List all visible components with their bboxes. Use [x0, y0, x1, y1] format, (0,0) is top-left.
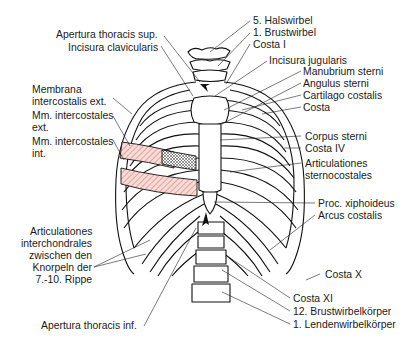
label-mm-intercostales-int-1: Mm. intercostales: [32, 136, 113, 148]
label-artic-interchondrales-5: 7.-10. Rippe: [20, 274, 92, 286]
cervical-vertebrae: [188, 48, 230, 82]
label-mm-intercostales-int-2: int.: [32, 148, 46, 160]
label-mm-intercostales-ext-1: Mm. intercostales: [32, 110, 113, 122]
label-corpus-sterni: Corpus sterni: [305, 131, 367, 143]
thorax-diagram: Apertura thoracis sup. Incisura clavicul…: [0, 0, 415, 346]
label-brustwirbel: 1. Brustwirbel: [253, 27, 316, 39]
label-12-brustwirbelkoerper: 12. Brustwirbelkörper: [293, 306, 391, 318]
label-artic-interchondrales-4: Knorpeln der: [20, 262, 92, 274]
label-artic-interchondrales-2: interchondrales: [20, 238, 92, 250]
label-costa: Costa: [303, 102, 330, 114]
label-costa-10: Costa X: [325, 269, 362, 281]
label-cartilago-costalis: Cartilago costalis: [303, 90, 382, 102]
label-membrana-2: intercostalis ext.: [32, 96, 107, 108]
label-costa-11: Costa XI: [293, 293, 333, 305]
label-costa-4: Costa IV: [305, 143, 345, 155]
label-membrana-1: Membrana: [32, 84, 82, 96]
label-arcus-costalis: Arcus costalis: [318, 210, 382, 222]
label-incisura-jugularis: Incisura jugularis: [269, 55, 347, 67]
intercostal-muscles: [120, 142, 197, 196]
label-incisura-clavicularis: Incisura clavicularis: [68, 42, 158, 54]
label-angulus-sterni: Angulus sterni: [303, 78, 369, 90]
label-proc-xiphoideus: Proc. xiphoideus: [318, 198, 395, 210]
label-apertura-thoracis-sup: Apertura thoracis sup.: [56, 29, 158, 41]
label-costa-1: Costa I: [253, 39, 286, 51]
label-1-lendenwirbelkoerper: 1. Lendenwirbelkörper: [293, 319, 396, 331]
label-artic-sternocostales-2: sternocostales: [305, 170, 372, 182]
label-apertura-thoracis-inf: Apertura thoracis inf.: [41, 320, 137, 332]
label-artic-interchondrales-3: zwischen den: [20, 250, 92, 262]
label-artic-interchondrales-1: Articulationes: [30, 226, 92, 238]
vertebral-column-lower: [192, 222, 230, 302]
label-halswirbel: 5. Halswirbel: [253, 15, 312, 27]
label-mm-intercostales-ext-2: ext.: [32, 122, 49, 134]
label-artic-sternocostales-1: Articulationes: [305, 158, 367, 170]
label-manubrium-sterni: Manubrium sterni: [303, 66, 383, 78]
